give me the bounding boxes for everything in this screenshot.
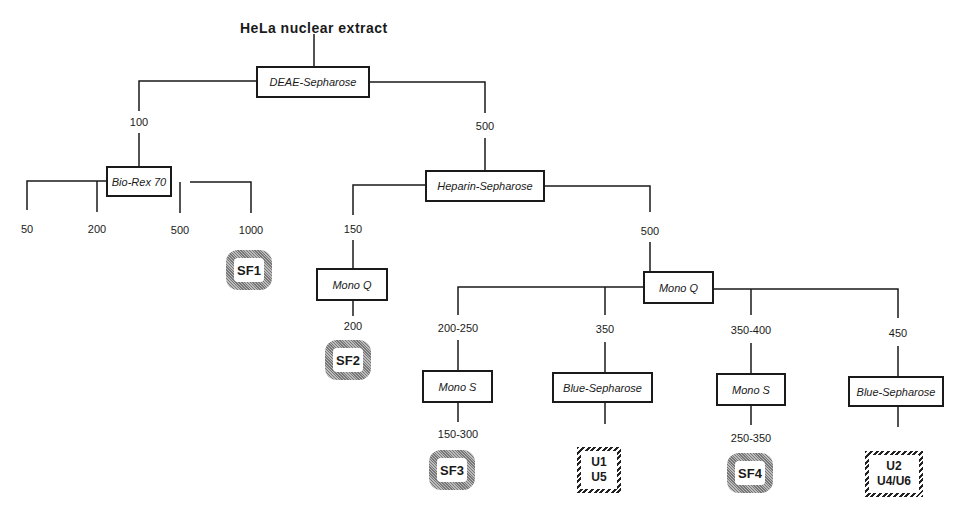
fraction-label: U1	[591, 455, 606, 470]
salt-label: 200-250	[437, 322, 479, 334]
fraction-sf4: SF4	[727, 453, 773, 493]
salt-label: 500	[640, 225, 660, 237]
fraction-label: SF2	[333, 348, 363, 372]
salt-label: 1000	[238, 224, 264, 236]
salt-label: 250-350	[730, 432, 772, 444]
salt-label: 150	[343, 223, 363, 235]
fraction-sf1: SF1	[226, 250, 272, 290]
fraction-label: SF1	[234, 258, 264, 282]
fraction-u2-u4-u6: U2U4/U6	[865, 451, 923, 497]
fraction-label: U4/U6	[877, 474, 911, 489]
fraction-label: SF4	[735, 461, 765, 485]
column-heparin-sepharose: Heparin-Sepharose	[425, 170, 545, 202]
purification-scheme-diagram: HeLa nuclear extract DEAE-Sepharose Bio-…	[0, 0, 957, 516]
salt-label: 450	[888, 327, 908, 339]
column-mono-s-2: Mono S	[716, 373, 786, 406]
fraction-label: SF3	[437, 458, 467, 482]
column-blue-sepharose-1: Blue-Sepharose	[552, 372, 653, 403]
salt-label: 50	[20, 223, 34, 235]
salt-label: 200	[87, 223, 107, 235]
diagram-title: HeLa nuclear extract	[240, 20, 388, 36]
salt-label: 350-400	[730, 324, 772, 336]
salt-label: 150-300	[437, 428, 479, 440]
salt-label: 500	[170, 224, 190, 236]
column-mono-q-2: Mono Q	[643, 271, 714, 304]
fraction-sf2: SF2	[325, 340, 371, 380]
fraction-label: U2	[886, 459, 901, 474]
column-mono-s-1: Mono S	[422, 370, 493, 403]
salt-label: 500	[475, 120, 495, 132]
column-deae-sepharose: DEAE-Sepharose	[256, 66, 370, 98]
fraction-u1-u5: U1U5	[577, 447, 621, 493]
column-blue-sepharose-2: Blue-Sepharose	[848, 376, 944, 407]
salt-label: 200	[343, 320, 363, 332]
salt-label: 100	[129, 116, 149, 128]
column-mono-q-1: Mono Q	[316, 268, 388, 301]
column-bio-rex-70: Bio-Rex 70	[106, 166, 172, 197]
fraction-sf3: SF3	[429, 450, 475, 490]
fraction-label: U5	[591, 470, 606, 485]
salt-label: 350	[595, 323, 615, 335]
